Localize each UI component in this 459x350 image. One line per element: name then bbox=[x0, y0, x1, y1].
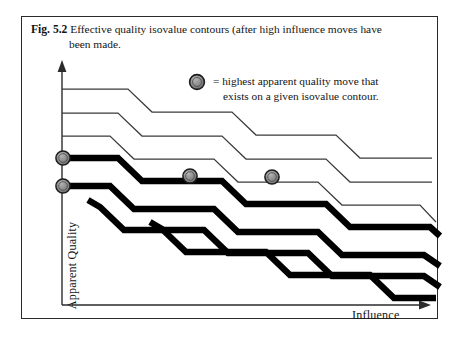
legend-marker-icon bbox=[190, 75, 205, 90]
y-axis-title-wrap: Apparent Quality bbox=[36, 110, 56, 220]
legend-line2: exists on a given isovalue contour. bbox=[213, 89, 413, 104]
arrow-right-icon bbox=[419, 301, 431, 310]
thin-contour-2 bbox=[62, 113, 432, 182]
x-axis-title: Influence bbox=[352, 308, 399, 323]
arrow-up-icon bbox=[58, 60, 67, 72]
marker-on-axis-upper[interactable] bbox=[56, 151, 70, 165]
legend: = highest apparent quality move that exi… bbox=[213, 74, 413, 103]
marker-mid-left[interactable] bbox=[183, 169, 197, 183]
y-axis-title: Apparent Quality bbox=[65, 211, 80, 321]
figure-root: Fig. 5.2 Effective quality isovalue cont… bbox=[0, 0, 459, 350]
marker-on-axis-lower[interactable] bbox=[56, 179, 70, 193]
bold-contour-group bbox=[62, 158, 440, 298]
bold-contour-3 bbox=[88, 200, 440, 287]
thin-contour-3 bbox=[62, 136, 436, 222]
marker-mid-right[interactable] bbox=[265, 170, 279, 184]
legend-line1: = highest apparent quality move that bbox=[213, 75, 378, 87]
